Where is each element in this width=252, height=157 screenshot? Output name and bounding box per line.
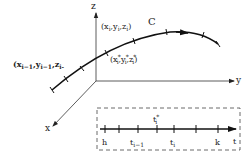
pprev-z-sub: i-	[59, 63, 64, 70]
point-star-label: (x*i,y*i,z*i)	[110, 52, 137, 66]
z-axis-label: z	[91, 2, 96, 11]
t-axis-label: t	[233, 137, 236, 146]
tick-label-t-i: ti	[170, 138, 175, 149]
tick-label-k: k	[215, 138, 220, 147]
pprev-y-sub: i−1	[40, 63, 51, 70]
x-axis	[53, 81, 96, 126]
point-i-label: (xi,yi,zi)	[101, 22, 131, 33]
pi-close: )	[128, 22, 131, 31]
curve-label: C	[148, 17, 156, 26]
t-star-sub: i	[155, 118, 157, 125]
point-prev-label: (xi−1,yi−1,zi-	[13, 60, 64, 71]
t-star-label: t*i	[153, 112, 157, 126]
tick-label-h: h	[102, 138, 107, 147]
y-axis-label: y	[236, 76, 241, 85]
t-i-sub: i	[173, 141, 175, 148]
t-prev-sub: i−1	[133, 141, 144, 148]
pprev-x-sub: i−1	[22, 63, 33, 70]
pprev-open: (x	[13, 59, 22, 69]
axes	[53, 13, 234, 126]
t-axis	[100, 125, 236, 133]
x-axis-label: x	[45, 124, 50, 133]
pi-y: ,y	[111, 22, 118, 31]
pstar-close: )	[134, 55, 137, 64]
pi-open: (x	[101, 22, 109, 31]
tick-label-t-prev: ti−1	[130, 138, 144, 149]
